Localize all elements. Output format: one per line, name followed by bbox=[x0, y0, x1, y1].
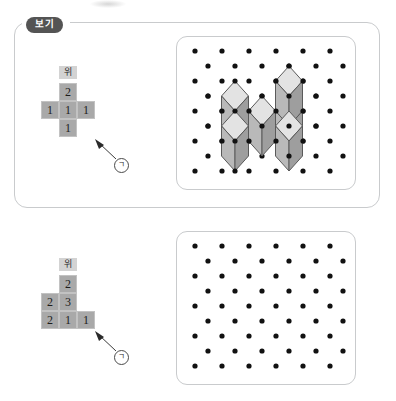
grid-cell-r2c1: 1 bbox=[59, 119, 77, 137]
grid-cell-r1c2: 1 bbox=[77, 101, 95, 119]
grid-cell-p-r2c1: 1 bbox=[59, 311, 77, 329]
grid-cell-p-r2c2: 1 bbox=[77, 311, 95, 329]
grid-cell-p-r2c0: 2 bbox=[41, 311, 59, 329]
above-label-example: 위 bbox=[59, 66, 77, 79]
dot-grid-svg-example bbox=[177, 37, 355, 189]
dot-grid-svg-problem bbox=[177, 232, 355, 384]
grid-cell-p-r0c1: 2 bbox=[59, 275, 77, 293]
example-tag: 보기 bbox=[26, 17, 63, 33]
callout-marker-problem: ㄱ bbox=[114, 350, 129, 365]
isometric-dot-grid-example bbox=[176, 36, 356, 190]
dot-lattice-problem bbox=[192, 243, 345, 368]
callout-marker-example: ㄱ bbox=[114, 158, 129, 173]
grid-cell-p-r1c0: 2 bbox=[41, 293, 59, 311]
grid-cell-r1c1: 1 bbox=[59, 101, 77, 119]
top-view-grid-problem: 위 2 2 3 2 1 1 bbox=[40, 258, 110, 334]
page-top-artifact bbox=[90, 0, 126, 8]
isometric-dot-grid-problem[interactable] bbox=[176, 231, 356, 385]
top-view-grid-example: 위 2 1 1 1 1 bbox=[40, 66, 110, 142]
worksheet-page: 보기 위 2 1 1 1 1 ㄱ bbox=[0, 0, 396, 401]
grid-cell-p-r1c1: 3 bbox=[59, 293, 77, 311]
grid-cell-r0c1: 2 bbox=[59, 83, 77, 101]
grid-cell-r1c0: 1 bbox=[41, 101, 59, 119]
above-label-problem: 위 bbox=[59, 258, 77, 271]
